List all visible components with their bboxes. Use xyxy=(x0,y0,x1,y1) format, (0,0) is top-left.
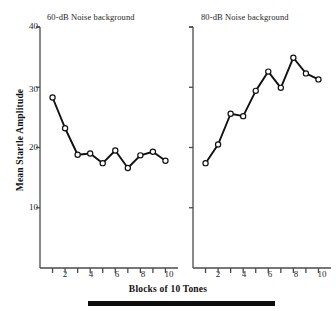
data-point-marker[interactable] xyxy=(138,153,143,158)
left-panel-axes xyxy=(36,27,178,273)
data-point-marker[interactable] xyxy=(316,77,321,82)
data-line xyxy=(53,97,166,167)
figure-container: 60-dB Noise background 80-dB Noise backg… xyxy=(0,0,336,311)
right-panel-series xyxy=(203,55,321,166)
data-point-marker[interactable] xyxy=(75,152,80,157)
data-point-marker[interactable] xyxy=(215,142,220,147)
plot-canvas xyxy=(0,0,336,311)
data-point-marker[interactable] xyxy=(163,158,168,163)
data-point-marker[interactable] xyxy=(291,55,296,60)
right-panel-axes xyxy=(189,27,331,273)
footer-rule-bar xyxy=(88,301,275,306)
data-point-marker[interactable] xyxy=(50,95,55,100)
data-point-marker[interactable] xyxy=(62,126,67,131)
data-point-marker[interactable] xyxy=(303,71,308,76)
data-point-marker[interactable] xyxy=(150,149,155,154)
data-point-marker[interactable] xyxy=(278,85,283,90)
data-point-marker[interactable] xyxy=(88,151,93,156)
left-panel-series xyxy=(50,95,168,171)
data-point-marker[interactable] xyxy=(241,114,246,119)
data-point-marker[interactable] xyxy=(266,69,271,74)
data-line xyxy=(206,58,319,163)
data-point-marker[interactable] xyxy=(228,111,233,116)
data-point-marker[interactable] xyxy=(100,161,105,166)
data-point-marker[interactable] xyxy=(125,165,130,170)
data-point-marker[interactable] xyxy=(113,148,118,153)
data-point-marker[interactable] xyxy=(203,161,208,166)
data-point-marker[interactable] xyxy=(253,88,258,93)
